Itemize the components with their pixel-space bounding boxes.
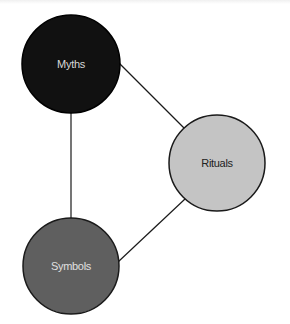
node-rituals: Rituals: [169, 115, 265, 211]
edge-myths-rituals: [117, 61, 185, 129]
node-myths: Myths: [22, 15, 120, 113]
symbols-label: Symbols: [51, 260, 92, 272]
edge-rituals-symbols: [118, 199, 185, 262]
node-symbols: Symbols: [23, 218, 119, 314]
rituals-label: Rituals: [201, 157, 233, 169]
concept-diagram: Myths Rituals Symbols: [0, 0, 290, 324]
myths-label: Myths: [57, 58, 86, 70]
